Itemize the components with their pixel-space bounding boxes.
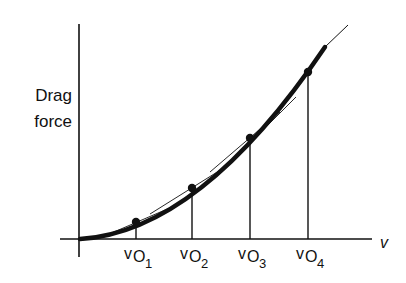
point-label-2: v O 2 bbox=[180, 245, 208, 271]
y-axis-label-line1: Drag bbox=[35, 86, 72, 105]
svg-text:O: O bbox=[189, 248, 201, 265]
svg-text:O: O bbox=[305, 248, 317, 265]
curve-extension bbox=[325, 25, 348, 47]
point-label-3: v O 3 bbox=[238, 245, 266, 271]
drag-curve bbox=[80, 47, 325, 239]
svg-text:2: 2 bbox=[201, 256, 208, 271]
x-axis-label: v bbox=[380, 234, 389, 251]
operating-point-1 bbox=[132, 218, 140, 226]
svg-text:v: v bbox=[238, 245, 246, 262]
drag-force-diagram: Drag force v v O 1 v O 2 v O 3 v O 4 bbox=[0, 0, 406, 283]
tangent-line-3 bbox=[210, 112, 280, 172]
svg-text:4: 4 bbox=[317, 256, 324, 271]
point-label-1: v O 1 bbox=[124, 245, 152, 271]
operating-point-2 bbox=[188, 184, 196, 192]
point-label-4: v O 4 bbox=[296, 245, 324, 271]
tangent-line-4 bbox=[240, 97, 296, 153]
operating-point-3 bbox=[246, 134, 254, 142]
svg-text:v: v bbox=[124, 245, 132, 262]
svg-text:3: 3 bbox=[259, 256, 266, 271]
svg-text:O: O bbox=[133, 248, 145, 265]
svg-text:O: O bbox=[247, 248, 259, 265]
svg-text:1: 1 bbox=[145, 256, 152, 271]
svg-text:v: v bbox=[180, 245, 188, 262]
y-axis-label-line2: force bbox=[34, 112, 72, 131]
operating-point-4 bbox=[304, 68, 312, 76]
svg-text:v: v bbox=[296, 245, 304, 262]
